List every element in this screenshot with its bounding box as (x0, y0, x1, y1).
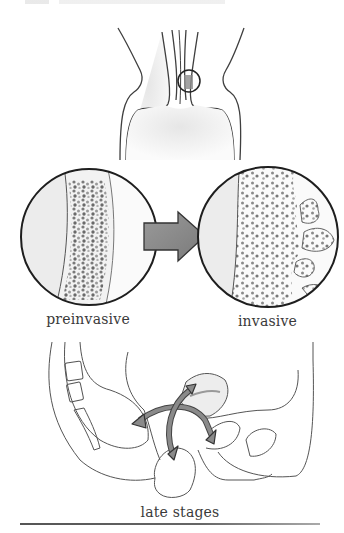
caption-invasive: invasive (220, 313, 315, 329)
caption-preinvasive: preinvasive (38, 311, 138, 327)
caption-late-stages: late stages (120, 504, 240, 520)
cervix-overview-drawing (118, 28, 244, 160)
invasive-magnified-view (195, 160, 338, 310)
medical-illustration (0, 0, 344, 533)
pelvic-cross-section-drawing (49, 342, 314, 497)
horizontal-rule-divider (20, 523, 320, 525)
preinvasive-magnified-view (20, 160, 157, 320)
